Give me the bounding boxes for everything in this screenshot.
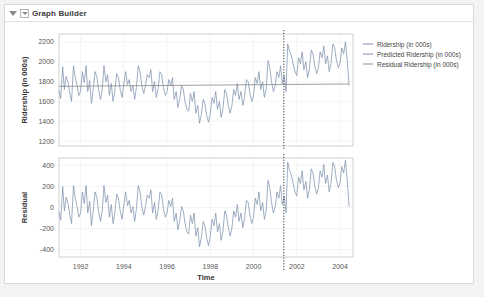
triangle-down-boxed-icon[interactable] — [20, 9, 29, 18]
residual-panel-ytick-label: 400 — [42, 162, 54, 169]
ridership-panel-ytick-label: 1600 — [38, 98, 54, 105]
triangle-down-icon[interactable] — [9, 11, 17, 16]
page-title: Graph Builder — [32, 9, 87, 18]
residual-panel-ylabel: Residual — [20, 192, 29, 223]
ridership-panel-ytick-label: 1400 — [38, 118, 54, 125]
xaxis-label: Time — [197, 273, 214, 282]
xtick-label: 2002 — [289, 263, 305, 270]
residual-panel-ytick-label: 200 — [42, 183, 54, 190]
ridership-panel-ytick-label: 1800 — [38, 78, 54, 85]
xtick-label: 2000 — [246, 263, 262, 270]
chart-container: 120014001600180020002200Ridership (in 00… — [5, 22, 475, 284]
xtick-label: 1992 — [73, 263, 89, 270]
residual-panel-ytick-label: -400 — [40, 246, 54, 253]
residual-panel-ytick-label: 0 — [50, 204, 54, 211]
graph-builder-window: Graph Builder 120014001600180020002200Ri… — [0, 0, 484, 297]
residual-panel-ytick-label: -200 — [40, 225, 54, 232]
xtick-label: 2004 — [332, 263, 348, 270]
ridership-panel-ytick-label: 1200 — [38, 138, 54, 145]
graph-builder-chart: 120014001600180020002200Ridership (in 00… — [5, 22, 475, 284]
graph-builder-card: Graph Builder 120014001600180020002200Ri… — [4, 4, 474, 284]
legend-label: Predicted Ridership (in 000s) — [377, 51, 461, 59]
ridership-panel-ytick-label: 2200 — [38, 38, 54, 45]
legend-label: Ridership (in 000s) — [377, 41, 432, 49]
xtick-label: 1996 — [159, 263, 175, 270]
xtick-label: 1998 — [203, 263, 219, 270]
xtick-label: 1994 — [116, 263, 132, 270]
ridership-panel-ylabel: Ridership (in 000s) — [20, 56, 29, 124]
ridership-panel-ytick-label: 2000 — [38, 58, 54, 65]
legend-label: Residual Ridership (in 000s) — [377, 61, 459, 69]
ridership-panel-frame — [59, 34, 353, 146]
graph-builder-titlebar: Graph Builder — [5, 5, 473, 21]
